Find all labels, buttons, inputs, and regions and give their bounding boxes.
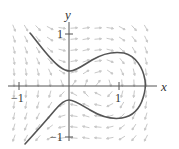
arrow-head-icon (76, 27, 78, 29)
arrow-head-icon (119, 138, 121, 140)
arrow-head-icon (76, 38, 78, 40)
arrow-head-icon (71, 92, 73, 94)
arrow-head-icon (36, 117, 38, 119)
arrow-head-icon (13, 51, 15, 53)
arrow-head-icon (26, 40, 28, 42)
arrow-head-icon (100, 60, 102, 62)
arrow-head-icon (13, 118, 15, 120)
arrow-head-icon (64, 27, 66, 29)
arrow-head-icon (50, 73, 52, 75)
arrow-head-icon (134, 62, 136, 64)
arrow-head-icon (145, 107, 147, 109)
arrow-head-icon (107, 126, 109, 128)
arrow-head-icon (111, 50, 113, 52)
arrow-head-icon (37, 73, 39, 75)
arrow-head-icon (87, 70, 89, 72)
arrow-head-icon (14, 29, 16, 31)
arrow-head-icon (95, 126, 97, 128)
arrow-head-icon (13, 63, 15, 65)
arrow-head-icon (75, 71, 77, 73)
arrow-head-icon (100, 38, 102, 40)
arrow-head-icon (83, 115, 85, 117)
arrow-head-icon (107, 137, 109, 139)
arrow-head-icon (59, 116, 61, 118)
arrow-head-icon (134, 51, 136, 53)
y-tick-label-1: 1 (57, 27, 63, 41)
arrow-head-icon (13, 74, 15, 76)
arrow-head-icon (64, 38, 66, 40)
arrow-head-icon (14, 40, 16, 42)
arrow-head-icon (24, 139, 26, 141)
arrow-head-icon (133, 96, 135, 98)
arrow-head-icon (100, 27, 102, 29)
arrow-head-icon (133, 106, 135, 108)
arrow-head-icon (25, 62, 27, 64)
arrow-head-icon (38, 62, 40, 64)
arrow-head-icon (13, 128, 15, 130)
arrow-head-icon (83, 103, 85, 105)
arrow-head-icon (76, 60, 78, 62)
arrow-head-icon (144, 139, 146, 141)
arrow-head-icon (25, 107, 27, 109)
arrow-head-icon (88, 38, 90, 40)
arrow-head-icon (26, 29, 28, 31)
arrow-head-icon (100, 49, 102, 51)
arrow-head-icon (25, 74, 27, 76)
y-axis-label: y (63, 7, 71, 22)
solution-curve (25, 33, 145, 144)
arrow-head-icon (71, 126, 73, 128)
arrow-head-icon (120, 106, 122, 108)
arrow-head-icon (71, 115, 73, 117)
arrow-head-icon (49, 95, 51, 97)
arrow-head-icon (74, 80, 76, 82)
arrow-head-icon (71, 104, 73, 106)
arrow-head-icon (112, 38, 114, 40)
arrow-head-icon (95, 137, 97, 139)
arrow-head-icon (59, 126, 61, 128)
arrow-head-icon (63, 49, 65, 51)
arrow-head-icon (76, 49, 78, 51)
arrow-head-icon (111, 72, 113, 74)
arrow-head-icon (25, 117, 27, 119)
arrow-head-icon (47, 138, 49, 140)
direction-field-arrows (13, 25, 148, 142)
arrow-head-icon (37, 106, 39, 108)
arrow-head-icon (145, 96, 147, 98)
arrow-head-icon (25, 96, 27, 98)
arrow-head-icon (63, 61, 65, 63)
arrow-head-icon (95, 115, 97, 117)
arrow-head-icon (145, 62, 147, 64)
arrow-head-icon (83, 137, 85, 139)
arrow-head-icon (37, 96, 39, 98)
arrow-head-icon (144, 128, 146, 130)
arrow-head-icon (107, 105, 109, 107)
arrow-head-icon (51, 39, 53, 41)
arrow-head-icon (146, 51, 148, 53)
arrow-head-icon (123, 28, 125, 30)
arrow-head-icon (63, 72, 65, 74)
arrow-head-icon (132, 117, 134, 119)
arrow-head-icon (95, 104, 97, 106)
arrow-head-icon (146, 40, 148, 42)
arrow-head-icon (87, 49, 89, 51)
arrow-head-icon (145, 74, 147, 76)
arrow-head-icon (88, 27, 90, 29)
arrow-head-icon (13, 139, 15, 141)
arrow-head-icon (145, 117, 147, 119)
arrow-head-icon (86, 80, 88, 82)
arrow-head-icon (38, 51, 40, 53)
y-tick-label-neg1: −1 (50, 130, 63, 144)
direction-field-plot: y x −1 1 1 −1 (0, 0, 179, 149)
arrow-head-icon (133, 73, 135, 75)
arrow-head-icon (24, 128, 26, 130)
arrow-head-icon (112, 27, 114, 29)
arrow-head-icon (99, 71, 101, 73)
arrow-head-icon (13, 107, 15, 109)
arrow-head-icon (122, 73, 124, 75)
x-tick-label-neg1: −1 (11, 91, 24, 105)
arrow-head-icon (132, 128, 134, 130)
arrow-head-icon (111, 61, 113, 63)
x-tick-label-1: 1 (115, 91, 121, 105)
arrow-head-icon (83, 126, 85, 128)
arrow-head-icon (95, 92, 97, 94)
